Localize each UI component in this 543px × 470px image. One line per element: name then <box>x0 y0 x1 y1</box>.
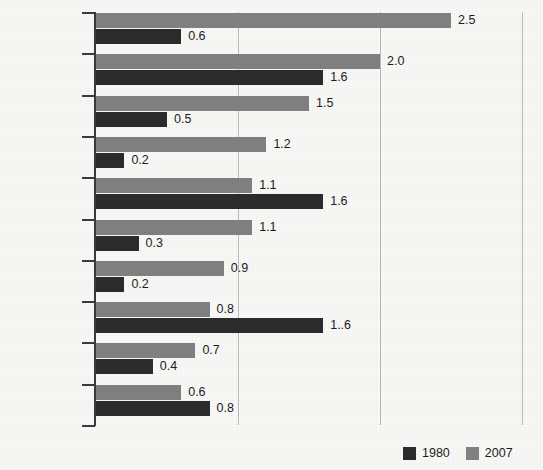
bar-value-1980-vietnamese: 0.2 <box>131 153 148 168</box>
bar-1980-korean[interactable] <box>96 236 139 251</box>
y-axis-tick <box>82 53 95 55</box>
bar-2007-chinese[interactable] <box>96 13 451 28</box>
bar-value-1980-italian: 1..6 <box>330 318 351 333</box>
bar-1980-russian[interactable] <box>96 277 124 292</box>
legend-swatch-icon-2007 <box>466 447 479 460</box>
y-axis-tick <box>82 342 95 344</box>
bar-2007-russian[interactable] <box>96 261 224 276</box>
bar-group-russian: Russian0.90.2 <box>96 260 543 301</box>
y-axis-tick <box>82 95 95 97</box>
bar-chart: Chinese2.50.6French2.01.6Tagalog1.50.5Vi… <box>0 0 543 470</box>
bar-value-2007-polish: 0.6 <box>188 385 205 400</box>
y-axis-tick <box>82 12 95 14</box>
bar-value-2007-tagalog: 1.5 <box>316 96 333 111</box>
y-axis-tick <box>82 425 95 427</box>
legend-item-2007[interactable]: 2007 <box>466 447 513 460</box>
bar-2007-portuguese[interactable] <box>96 343 195 358</box>
bar-group-tagalog: Tagalog1.50.5 <box>96 95 543 136</box>
bar-value-2007-german: 1.1 <box>259 178 276 193</box>
y-axis-tick <box>82 260 95 262</box>
plot-area: Chinese2.50.6French2.01.6Tagalog1.50.5Vi… <box>96 12 543 425</box>
bar-group-chinese: Chinese2.50.6 <box>96 12 543 53</box>
bar-2007-polish[interactable] <box>96 385 181 400</box>
y-axis-tick <box>82 177 95 179</box>
bar-value-2007-portuguese: 0.7 <box>202 343 219 358</box>
bar-1980-tagalog[interactable] <box>96 112 167 127</box>
bar-value-1980-chinese: 0.6 <box>188 29 205 44</box>
bar-2007-tagalog[interactable] <box>96 96 309 111</box>
bar-2007-german[interactable] <box>96 178 252 193</box>
y-axis-tick <box>82 136 95 138</box>
bar-group-german: German1.11.6 <box>96 177 543 218</box>
legend-label-1980: 1980 <box>422 447 450 460</box>
bar-1980-vietnamese[interactable] <box>96 153 124 168</box>
bar-group-korean: Korean1.10.3 <box>96 219 543 260</box>
bar-value-1980-russian: 0.2 <box>131 277 148 292</box>
bar-value-2007-russian: 0.9 <box>231 261 248 276</box>
legend-label-2007: 2007 <box>485 447 513 460</box>
bar-2007-italian[interactable] <box>96 302 210 317</box>
bar-value-1980-german: 1.6 <box>330 194 347 209</box>
legend-swatch-icon-1980 <box>403 447 416 460</box>
bar-2007-korean[interactable] <box>96 220 252 235</box>
bar-1980-german[interactable] <box>96 194 323 209</box>
bar-value-2007-french: 2.0 <box>387 54 404 69</box>
bar-group-french: French2.01.6 <box>96 53 543 94</box>
bar-value-2007-korean: 1.1 <box>259 220 276 235</box>
bar-value-1980-french: 1.6 <box>330 70 347 85</box>
y-axis-tick <box>82 301 95 303</box>
bar-value-2007-chinese: 2.5 <box>458 13 475 28</box>
bar-value-1980-korean: 0.3 <box>146 236 163 251</box>
bar-value-2007-vietnamese: 1.2 <box>273 137 290 152</box>
chart-legend: 19802007 <box>403 445 513 461</box>
bar-2007-french[interactable] <box>96 54 380 69</box>
bar-group-vietnamese: Vietnamese1.20.2 <box>96 136 543 177</box>
bar-value-2007-italian: 0.8 <box>217 302 234 317</box>
bar-1980-polish[interactable] <box>96 401 210 416</box>
legend-item-1980[interactable]: 1980 <box>403 447 450 460</box>
bar-group-italian: Italian0.81..6 <box>96 301 543 342</box>
bar-value-1980-polish: 0.8 <box>217 401 234 416</box>
bar-1980-french[interactable] <box>96 70 323 85</box>
bar-1980-chinese[interactable] <box>96 29 181 44</box>
bar-value-1980-tagalog: 0.5 <box>174 112 191 127</box>
bar-1980-portuguese[interactable] <box>96 359 153 374</box>
bar-1980-italian[interactable] <box>96 318 323 333</box>
bar-group-portuguese: Portuguese0.70.4 <box>96 342 543 383</box>
y-axis-tick <box>82 384 95 386</box>
bar-2007-vietnamese[interactable] <box>96 137 266 152</box>
bar-group-polish: Polish0.60.8 <box>96 384 543 425</box>
y-axis-tick <box>82 219 95 221</box>
bar-value-1980-portuguese: 0.4 <box>160 359 177 374</box>
